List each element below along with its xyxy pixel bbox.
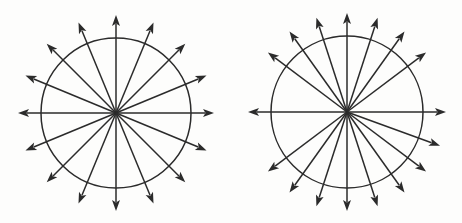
left-circle-panel bbox=[18, 15, 214, 211]
vector-field-diagram bbox=[0, 0, 462, 223]
figure-container bbox=[0, 0, 462, 223]
